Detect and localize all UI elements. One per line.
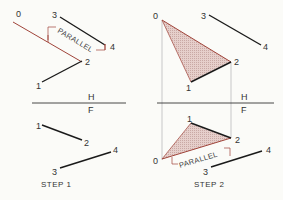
step1-caption: STEP 1 xyxy=(41,180,71,189)
descriptive-geometry-figure: PARALLEL 0 3 4 2 1 H F 1 2 4 3 STEP 1 0 … xyxy=(0,0,283,200)
step2-front-label-4: 4 xyxy=(266,145,271,155)
step2-label-h: H xyxy=(241,92,248,102)
step2-front-label-2: 2 xyxy=(235,135,240,145)
step2-front-line-3-4 xyxy=(211,151,262,167)
step1-parallel-bracket xyxy=(48,27,56,40)
step2-parallel-bracket-left xyxy=(172,157,178,164)
step2-front-label-0: 0 xyxy=(153,156,158,166)
step1-front-line-1-2 xyxy=(42,125,82,140)
step2-parallel-bracket-right xyxy=(224,148,230,156)
step1-front-label-2: 2 xyxy=(84,138,89,148)
diagram-canvas: PARALLEL 0 3 4 2 1 H F 1 2 4 3 STEP 1 0 … xyxy=(0,0,283,200)
step1-front-label-3: 3 xyxy=(52,167,57,177)
step2-label-2: 2 xyxy=(234,57,239,67)
step1-label-0: 0 xyxy=(16,9,21,19)
step1-label-3: 3 xyxy=(52,10,57,20)
step2-label-0: 0 xyxy=(153,11,158,21)
step1-front-line-3-4 xyxy=(60,152,111,168)
step2-caption: STEP 2 xyxy=(194,180,224,189)
step1-label-4: 4 xyxy=(110,42,115,52)
step1-label-f: F xyxy=(88,105,94,115)
step2-top-line-3-4 xyxy=(209,15,261,45)
step1-label-2: 2 xyxy=(85,57,90,67)
step1-label-h: H xyxy=(88,92,95,102)
step2-label-4: 4 xyxy=(263,42,268,52)
step1-front-label-4: 4 xyxy=(113,145,118,155)
step1-panel: PARALLEL 0 3 4 2 1 H F 1 2 4 3 STEP 1 xyxy=(13,9,126,189)
step2-label-3: 3 xyxy=(201,11,206,21)
step2-label-f: F xyxy=(241,105,247,115)
step2-label-1: 1 xyxy=(186,83,191,93)
step2-front-label-1: 1 xyxy=(187,114,192,124)
step1-front-label-1: 1 xyxy=(36,121,41,131)
step2-top-plane-fill xyxy=(162,20,231,82)
step1-label-1: 1 xyxy=(36,81,41,91)
step2-panel: 0 3 4 2 1 H F PARALLEL 1 2 0 4 3 STEP 2 xyxy=(153,11,274,189)
step1-line-1-2 xyxy=(42,61,82,82)
step2-front-label-3: 3 xyxy=(203,167,208,177)
